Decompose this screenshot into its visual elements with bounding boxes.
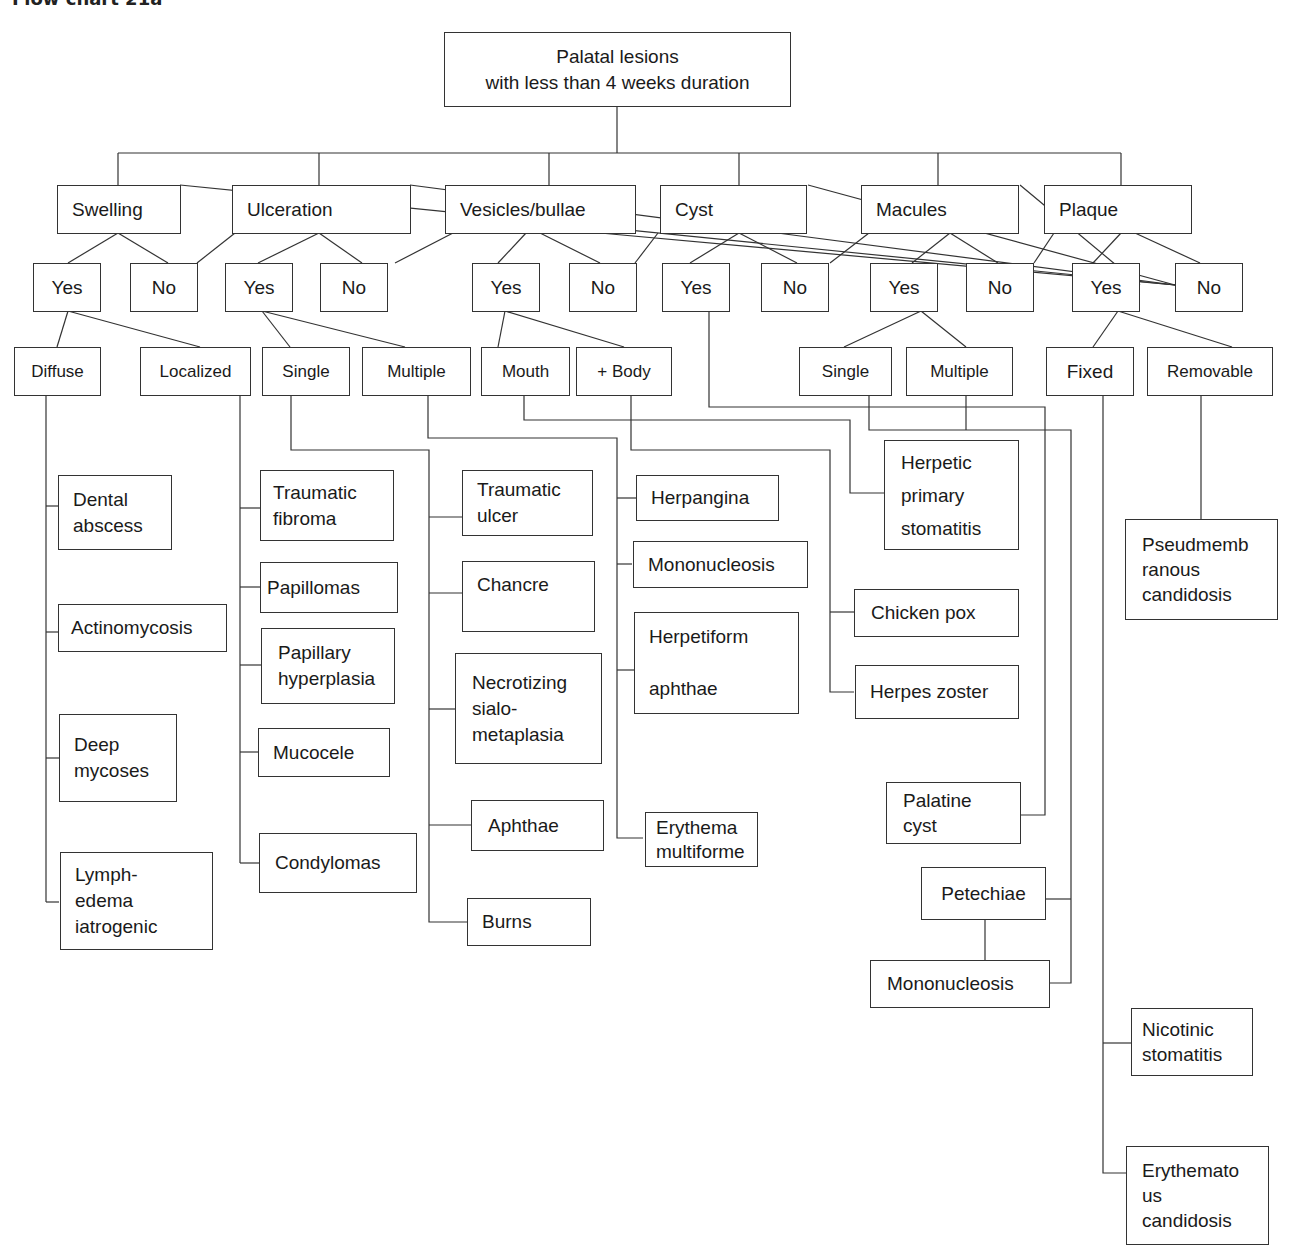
dx-herpes-zoster: Herpes zoster (855, 665, 1019, 719)
dx-palatine-cyst: Palatine cyst (886, 782, 1021, 844)
plaque-no: No (1175, 263, 1243, 312)
subtype-removable: Removable (1147, 347, 1273, 396)
macules-yes: Yes (870, 263, 938, 312)
dx-mucocele: Mucocele (258, 728, 390, 777)
subtype-localized: Localized (140, 347, 251, 396)
subtype-diffuse: Diffuse (14, 347, 101, 396)
subtype-body: + Body (576, 347, 672, 396)
dx-petechiae: Petechiae (921, 867, 1046, 920)
category-plaque: Plaque (1044, 185, 1192, 234)
cyst-no: No (761, 263, 829, 312)
subtype-macule-multiple: Multiple (906, 347, 1013, 396)
category-swelling: Swelling (57, 185, 181, 234)
subtype-macule-single: Single (799, 347, 892, 396)
category-ulceration: Ulceration (232, 185, 411, 234)
flowchart-canvas: Flow chart 21a (0, 0, 1290, 1245)
dx-lymphedema-iatrogenic: Lymph- edema iatrogenic (60, 852, 213, 950)
dx-papillary-hyperplasia: Papillary hyperplasia (261, 628, 395, 704)
dx-condylomas: Condylomas (259, 833, 417, 893)
ulceration-no: No (320, 263, 388, 312)
swelling-yes: Yes (33, 263, 101, 312)
dx-nicotinic-stomatitis: Nicotinic stomatitis (1131, 1008, 1253, 1076)
dx-chicken-pox: Chicken pox (854, 589, 1019, 637)
dx-aphthae: Aphthae (471, 800, 604, 851)
ulceration-yes: Yes (225, 263, 293, 312)
dx-herpetiform-aphthae: Herpetiform aphthae (634, 612, 799, 714)
dx-burns: Burns (467, 898, 591, 946)
category-cyst: Cyst (660, 185, 807, 234)
dx-necrotizing-sialometaplasia: Necrotizing sialo- metaplasia (455, 653, 602, 764)
dx-pseudomembranous-candidosis: Pseudmemb ranous candidosis (1125, 519, 1278, 620)
dx-actinomycosis: Actinomycosis (58, 604, 227, 652)
subtype-ulcer-single: Single (262, 347, 350, 396)
category-vesicles-bullae: Vesicles/bullae (445, 185, 636, 234)
dx-mononucleosis-vesicles: Mononucleosis (633, 541, 808, 588)
cyst-yes: Yes (662, 263, 730, 312)
subtype-mouth: Mouth (481, 347, 570, 396)
subtype-ulcer-multiple: Multiple (362, 347, 471, 396)
macules-no: No (966, 263, 1034, 312)
subtype-fixed: Fixed (1046, 347, 1134, 396)
dx-erythematous-candidosis: Erythemato us candidosis (1126, 1146, 1269, 1245)
plaque-yes: Yes (1072, 263, 1140, 312)
dx-mononucleosis-macules: Mononucleosis (870, 960, 1050, 1008)
dx-traumatic-ulcer: Traumatic ulcer (462, 470, 593, 536)
dx-chancre: Chancre (462, 561, 595, 632)
vesicles-no: No (569, 263, 637, 312)
dx-deep-mycoses: Deep mycoses (59, 714, 177, 802)
dx-herpangina: Herpangina (636, 475, 779, 521)
vesicles-yes: Yes (472, 263, 540, 312)
root-node: Palatal lesions with less than 4 weeks d… (444, 32, 791, 107)
swelling-no: No (130, 263, 198, 312)
dx-herpetic-primary-stomatitis: Herpetic primary stomatitis (884, 440, 1019, 550)
category-macules: Macules (861, 185, 1019, 234)
dx-traumatic-fibroma: Traumatic fibroma (260, 470, 394, 541)
dx-papillomas: Papillomas (260, 562, 398, 613)
dx-dental-abscess: Dental abscess (58, 475, 172, 550)
dx-erythema-multiforme: Erythema multiforme (645, 812, 758, 867)
